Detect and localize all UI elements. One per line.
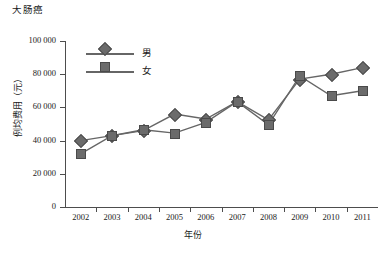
square-marker-icon <box>201 118 211 128</box>
square-marker-icon <box>139 125 149 135</box>
square-marker-icon <box>264 120 274 130</box>
square-marker-icon <box>295 71 305 81</box>
series-lines <box>0 0 386 260</box>
y-axis-title: 例均费用（元） <box>13 59 23 151</box>
square-marker-icon <box>76 149 86 159</box>
legend-line-male <box>86 53 134 55</box>
series-line-男 <box>81 68 363 141</box>
series-line-女 <box>81 76 363 154</box>
x-axis-title: 年份 <box>0 230 386 240</box>
legend-label-female: 女 <box>142 64 152 78</box>
legend-line-female <box>86 71 134 73</box>
square-marker-icon <box>358 86 368 96</box>
square-marker-icon <box>107 131 117 141</box>
square-marker-icon <box>100 62 110 72</box>
plot-area: 020 00040 00060 00080 000100 000 2002200… <box>0 0 386 260</box>
square-marker-icon <box>327 91 337 101</box>
square-marker-icon <box>233 97 243 107</box>
chart-figure: 大肠癌 020 00040 00060 00080 000100 000 200… <box>0 0 386 260</box>
square-marker-icon <box>170 129 180 139</box>
legend-label-male: 男 <box>142 46 152 60</box>
